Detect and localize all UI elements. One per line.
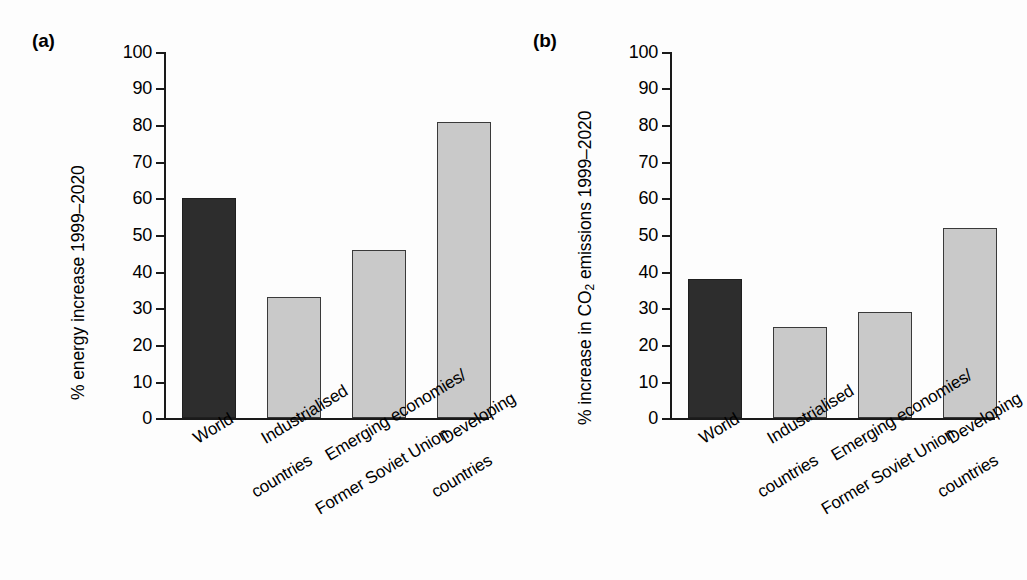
panel-a-tick-10 (156, 382, 165, 384)
panel-a-ticklabel-40: 40 (108, 262, 152, 283)
panel-a-ticklabel-30: 30 (108, 298, 152, 319)
panel-b-tick-90 (662, 88, 671, 90)
panel-a-ticklabel-70: 70 (108, 152, 152, 173)
panel-b-ticklabel-60: 60 (614, 188, 658, 209)
panel-b-ticklabel-10: 10 (614, 372, 658, 393)
panel-b-y-axis-title: % increase in CO2 emissions 1999–2020 (575, 111, 596, 425)
panel-b-tick-30 (662, 308, 671, 310)
panel-b-ticklabel-20: 20 (614, 335, 658, 356)
panel-a-ticklabel-20: 20 (108, 335, 152, 356)
panel-b-ticklabel-0: 0 (614, 408, 658, 429)
panel-a-ticklabel-60: 60 (108, 188, 152, 209)
panel-b-label: (b) (533, 30, 557, 52)
panel-a-ticklabel-80: 80 (108, 115, 152, 136)
panel-a-tick-0 (156, 418, 165, 420)
panel-a-tick-20 (156, 345, 165, 347)
panel-b-ticklabel-100: 100 (614, 42, 658, 63)
panel-b-ticklabel-30: 30 (614, 298, 658, 319)
panel-a-tick-100 (156, 52, 165, 54)
panel-a-tick-50 (156, 235, 165, 237)
panel-a-tick-40 (156, 272, 165, 274)
panel-b-ticklabel-40: 40 (614, 262, 658, 283)
figure-two-panel-bar-charts: (a) % energy increase 1999–2020 100 90 8… (0, 0, 1027, 580)
panel-b-tick-100 (662, 52, 671, 54)
panel-a: (a) % energy increase 1999–2020 100 90 8… (0, 0, 513, 580)
panel-a-bar-world (182, 198, 236, 418)
panel-b-tick-0 (662, 418, 671, 420)
panel-b-tick-50 (662, 235, 671, 237)
panel-a-ticklabel-50: 50 (108, 225, 152, 246)
panel-b-tick-10 (662, 382, 671, 384)
panel-a-tick-80 (156, 125, 165, 127)
panel-b-ticklabel-90: 90 (614, 78, 658, 99)
panel-b-y-axis-title-suffix: emissions 1999–2020 (575, 111, 595, 284)
panel-b-ticklabel-70: 70 (614, 152, 658, 173)
panel-b-ticklabel-50: 50 (614, 225, 658, 246)
panel-a-tick-60 (156, 198, 165, 200)
panel-a-ticklabel-90: 90 (108, 78, 152, 99)
panel-b-ticklabel-80: 80 (614, 115, 658, 136)
panel-b-tick-80 (662, 125, 671, 127)
panel-a-tick-30 (156, 308, 165, 310)
panel-b-tick-40 (662, 272, 671, 274)
panel-a-y-axis-title: % energy increase 1999–2020 (68, 165, 89, 400)
panel-a-tick-70 (156, 162, 165, 164)
panel-b-y-axis-title-subscript: 2 (583, 284, 597, 291)
panel-a-ticklabel-0: 0 (108, 408, 152, 429)
panel-b-y-axis-title-prefix: % increase in CO (575, 290, 595, 425)
panel-a-ticklabel-100: 100 (108, 42, 152, 63)
panel-a-tick-90 (156, 88, 165, 90)
panel-b-tick-70 (662, 162, 671, 164)
panel-a-ticklabel-10: 10 (108, 372, 152, 393)
panel-b-tick-20 (662, 345, 671, 347)
panel-b: (b) % increase in CO2 emissions 1999–202… (513, 0, 1026, 580)
panel-a-label: (a) (32, 30, 55, 52)
panel-b-tick-60 (662, 198, 671, 200)
